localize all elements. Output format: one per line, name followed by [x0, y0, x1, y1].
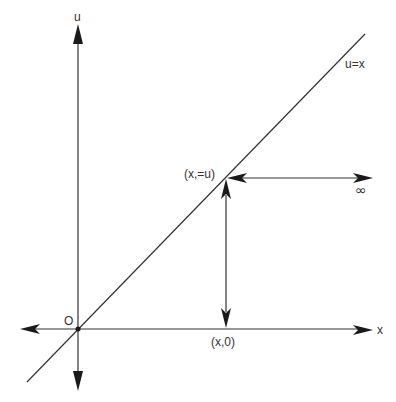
line-label: u=x — [345, 57, 365, 71]
u-axis — [73, 24, 83, 391]
vertical-double-arrow — [221, 179, 231, 328]
foot-point-label: (x,0) — [211, 335, 235, 349]
x-axis-right-arrow-icon — [353, 325, 373, 335]
horizontal-double-arrow — [227, 173, 373, 183]
origin-dot-icon — [76, 327, 81, 332]
u-axis-down-arrow-icon — [73, 371, 83, 391]
u-axis-up-arrow-icon — [73, 24, 83, 44]
u-axis-label: u — [74, 10, 81, 24]
intersection-point-label: (x,=u) — [184, 167, 215, 181]
infinity-label: ∞ — [355, 182, 367, 198]
origin-label: O — [64, 314, 73, 328]
x-axis-label: x — [377, 323, 383, 337]
diagram-canvas: u x O u=x (x,=u) (x,0) ∞ — [0, 0, 396, 402]
